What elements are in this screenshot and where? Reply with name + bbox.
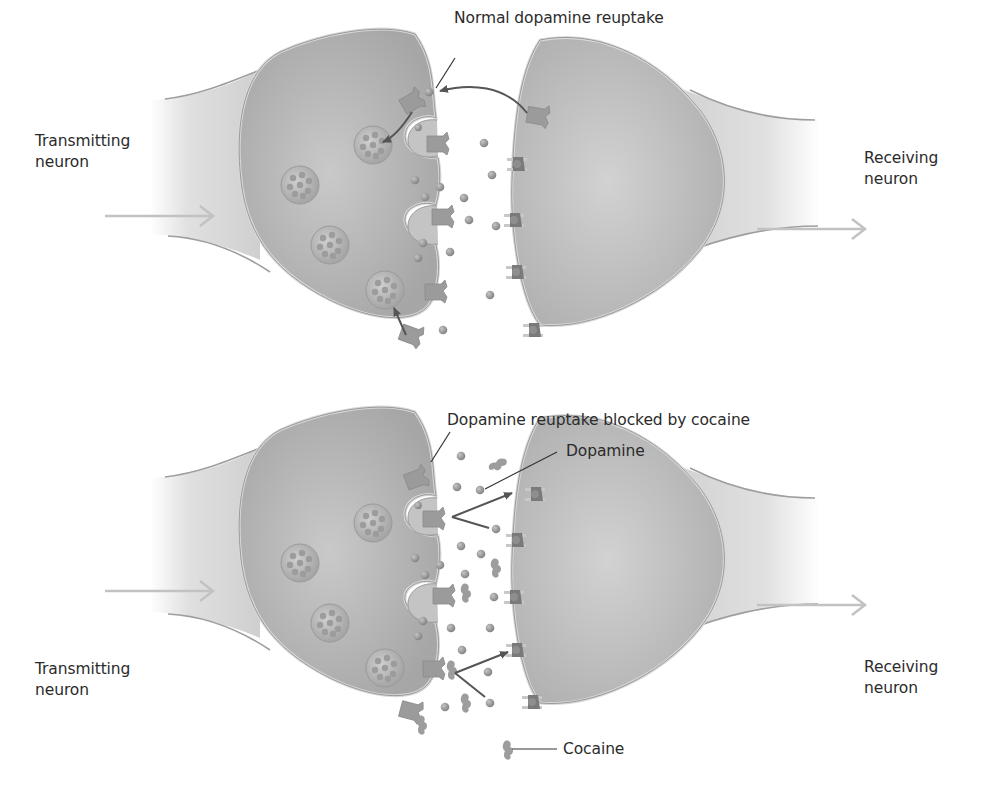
label-transmitting-neuron: Transmitting neuron (35, 659, 130, 701)
label-line: neuron (864, 678, 938, 699)
label-line: neuron (35, 152, 130, 173)
reuptake-arrow-icon (440, 87, 527, 113)
label-cocaine: Cocaine (563, 739, 624, 760)
synapse-diagram (0, 0, 982, 791)
label-receiving-neuron: Receiving neuron (864, 148, 938, 190)
blocked-reuptake-arrows (452, 493, 512, 697)
label-dopamine: Dopamine (566, 441, 645, 462)
title-leader-line (431, 432, 450, 462)
label-line: neuron (864, 169, 938, 190)
label-receiving-neuron: Receiving neuron (864, 657, 938, 699)
panel-normal-reuptake (105, 29, 865, 349)
panel-title-normal-reuptake: Normal dopamine reuptake (454, 8, 664, 29)
label-line: Receiving (864, 657, 938, 678)
label-line: neuron (35, 680, 130, 701)
panel-title-cocaine-blocked: Dopamine reuptake blocked by cocaine (447, 410, 750, 431)
panel-cocaine-blocked (105, 407, 865, 759)
label-line: Transmitting (35, 131, 130, 152)
label-transmitting-neuron: Transmitting neuron (35, 131, 130, 173)
label-line: Transmitting (35, 659, 130, 680)
title-leader-line (436, 58, 455, 88)
label-line: Receiving (864, 148, 938, 169)
